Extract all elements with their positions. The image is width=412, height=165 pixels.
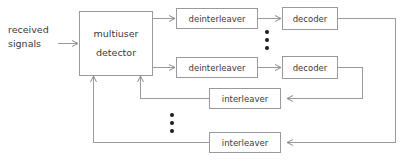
wire-deinterleaver-1-to-decoder-1 xyxy=(258,16,281,22)
interleaver-block-1: interleaver xyxy=(209,88,281,109)
wire-decoder-1-to-interleaver-2 xyxy=(287,19,396,146)
ellipsis-dot xyxy=(170,121,174,125)
input-signal-label: received signals xyxy=(8,23,49,51)
wire-interleaver-2-to-detector xyxy=(91,76,210,143)
wire-detector-to-deinterleaver-1 xyxy=(153,16,175,22)
deinterleaver-block-1: deinterleaver xyxy=(176,8,258,29)
ellipsis-dot xyxy=(265,46,269,50)
wire-deinterleaver-2-to-decoder-2 xyxy=(258,65,281,71)
decoder-1-label: decoder xyxy=(293,14,328,24)
input-signal-label-line1: received xyxy=(8,23,49,37)
interleaver-1-label: interleaver xyxy=(222,94,268,104)
wire-detector-to-deinterleaver-2 xyxy=(153,65,175,71)
multiuser-detector-block: multiuser detector xyxy=(79,11,153,76)
decoder-block-1: decoder xyxy=(282,7,338,30)
multiuser-detector-label-line1: multiuser xyxy=(94,25,139,43)
ellipsis-dot xyxy=(170,113,174,117)
deinterleaver-block-2: deinterleaver xyxy=(176,57,258,78)
decoder-2-label: decoder xyxy=(293,63,328,73)
ellipsis-dot xyxy=(265,38,269,42)
multiuser-detector-label-line2: detector xyxy=(94,44,139,62)
decoder-block-2: decoder xyxy=(282,56,338,79)
input-signal-label-line2: signals xyxy=(8,37,49,51)
deinterleaver-2-label: deinterleaver xyxy=(189,63,246,73)
wire-interleaver-1-to-detector xyxy=(138,76,210,99)
interleaver-block-2: interleaver xyxy=(209,132,281,153)
wire-input-to-detector xyxy=(58,41,78,47)
interleaver-2-label: interleaver xyxy=(222,138,268,148)
deinterleaver-1-label: deinterleaver xyxy=(189,14,246,24)
block-diagram: received signals multiuser detector dein… xyxy=(0,0,412,165)
ellipsis-dot xyxy=(170,129,174,133)
ellipsis-dot xyxy=(265,30,269,34)
